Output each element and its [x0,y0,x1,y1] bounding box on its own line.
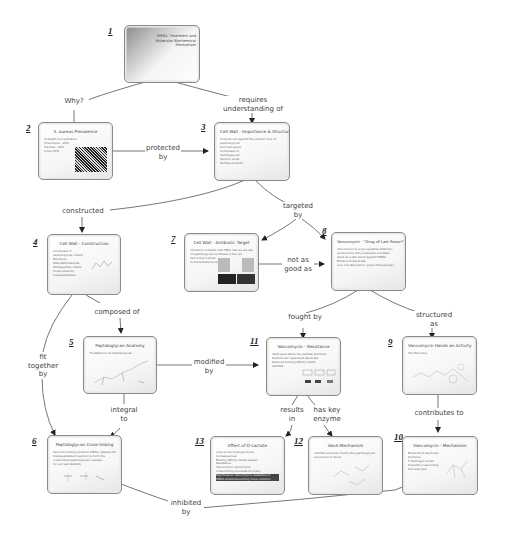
slide-thumbnail[interactable]: Vancomycin Hands an Activity The Structu… [402,336,477,395]
slide-body: The Basis for all Peptidoglycan [89,351,151,355]
edge-label-protected-by: protected by [145,144,181,161]
slide-thumbnail[interactable]: Cell Wall - Antibiotic Target Inhibitors… [184,233,259,292]
node-number: 11 [250,336,259,346]
slide-thumbnail[interactable]: MRSA: Treatment and Molecular Biochemica… [124,25,200,83]
slide-thumbnail[interactable]: Peptidoglycan Anatomy The Basis for all … [83,336,157,394]
slide-body: Binds the D-Ala-D-Ala terminus 5 Hydroge… [408,451,441,471]
slide-title: Effect of D-Lactate [211,443,284,448]
slide-thumbnail[interactable]: Peptidoglycan Cross-linking Penicillin b… [47,435,122,494]
vancomycin-structure-image [409,359,471,389]
slide-thumbnail[interactable]: Effect of D-Lactate Loss of one hydrogen… [210,436,285,495]
edge-label-has-key-enzyme: has key enzyme [310,406,344,423]
node-number: 1 [108,26,113,36]
mechanism-image [443,453,473,483]
slide-body: VanHAX enzymes modify the peptidoglycan … [314,451,377,459]
image-block [242,258,254,272]
edge-label-why: Why? [59,97,89,106]
molecule-image [90,257,114,273]
node-number: 9 [388,337,393,347]
slide-thumbnail[interactable]: Cell Wall - Importance & Structure Prote… [214,122,290,181]
structure-image [237,274,255,284]
edge-label-constructed: constructed [60,207,106,216]
slide-title: Vancomycin - "Drug of Last Resort" [337,239,405,244]
slide-thumbnail[interactable]: Vancomycin - Resistance VanA gene alters… [266,337,341,396]
edge-label-modified-by: modified by [192,358,226,375]
slide-body: Composed of peptidoglycan chains Backbon… [53,249,86,277]
node-number: 3 [201,122,206,132]
slide-body: Vancomycin is a glycopeptide antibiotic … [337,247,400,267]
slide-title: Peptidoglycan Cross-linking [48,442,121,447]
crosslink-diagram-image [60,468,110,486]
edge-label-fit-together-by: fit together by [25,353,61,379]
image-block [218,258,230,272]
slide-thumbnail[interactable]: Vancomycin - "Drug of Last Resort" Vanco… [331,232,406,291]
slide-thumbnail[interactable]: Cell Wall - Construction Composed of pep… [47,234,121,295]
peptidoglycan-structure-image [90,357,150,387]
edge-label-contributes-to: contributes to [412,409,466,418]
edge-label-structured-as: structured as [413,311,455,328]
edge-label-integral-to: integral to [106,406,142,423]
node-number: 7 [171,234,176,244]
slide-body: Loss of one hydrogen bond Consequences B… [216,451,279,481]
slide-thumbnail[interactable]: S. aureus Prevalence % Death Concentrati… [38,122,113,180]
node-number: 8 [322,226,327,236]
slide-title: Vancomycin - Resistance [267,344,340,349]
structure-image [218,274,236,284]
slide-title: MRSA: Treatment and Molecular Biochemica… [149,34,196,48]
edge-label-requires-understanding-of: requires understanding of [223,96,283,113]
slide-title: Cell Wall - Antibiotic Target [185,240,258,245]
edge-label-not-as-good-as: not as good as [282,256,314,273]
node-number: 4 [33,237,38,247]
edge-label-targeted-by: targeted by [282,202,314,219]
resistance-diagram-image [301,368,337,390]
slide-title: Cell Wall - Construction [48,241,120,246]
slide-title: Peptidoglycan Anatomy [84,343,156,348]
edge-label-results-in: results in [278,406,306,423]
slide-thumbnail[interactable]: Vancomycin - Mechanism Binds the D-Ala-D… [402,436,478,495]
slide-thumbnail[interactable]: VanA Mechanism VanHAX enzymes modify the… [308,436,383,495]
edge-label-inhibited-by: inhibited by [168,499,204,516]
node-number: 12 [294,436,303,446]
slide-title: Cell Wall - Importance & Structure [220,129,289,134]
slide-title: S. aureus Prevalence [39,129,112,134]
micrograph-image [75,147,107,172]
node-number: 6 [32,436,37,446]
slide-body: The Structure [408,351,471,355]
node-number: 13 [195,436,204,446]
slide-body: VanA gene alters the peptide terminus D-… [272,352,335,368]
slide-body: Protects cell against the osmotic flow o… [220,137,284,165]
slide-title: VanA Mechanism [309,443,382,448]
slide-body: Penicillin binding proteins (PBPs) catal… [53,450,116,466]
node-number: 5 [69,337,74,347]
node-number: 2 [26,123,31,133]
slide-title: Vancomycin Hands an Activity [408,343,476,348]
edge-label-composed-of: composed of [94,308,140,317]
slide-title: Vancomycin - Mechanism [403,443,477,448]
edge-label-fought-by: fought by [285,313,325,322]
enzyme-mechanism-image [329,459,375,489]
slide-body: % Death Concentration of Population Pneu… [44,137,77,153]
